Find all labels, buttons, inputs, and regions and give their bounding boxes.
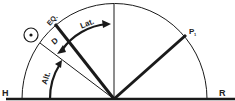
label-pole-subscript: 1 — [194, 32, 197, 37]
label-latitude: Lat. — [79, 17, 96, 31]
label-horizon-right: R — [219, 88, 226, 98]
pole-line — [114, 35, 186, 99]
celestial-meridian-diagram: H R EQ. D Lat. Alt. P 1 — [0, 0, 235, 101]
latitude-arrow-head — [102, 20, 111, 28]
label-altitude: Alt. — [40, 71, 53, 86]
label-declination: D — [50, 36, 60, 47]
label-horizon-left: H — [2, 88, 9, 98]
diagram-canvas: H R EQ. D Lat. Alt. P 1 — [0, 0, 235, 101]
star-symbol-dot — [29, 33, 32, 36]
altitude-arc — [50, 64, 60, 99]
